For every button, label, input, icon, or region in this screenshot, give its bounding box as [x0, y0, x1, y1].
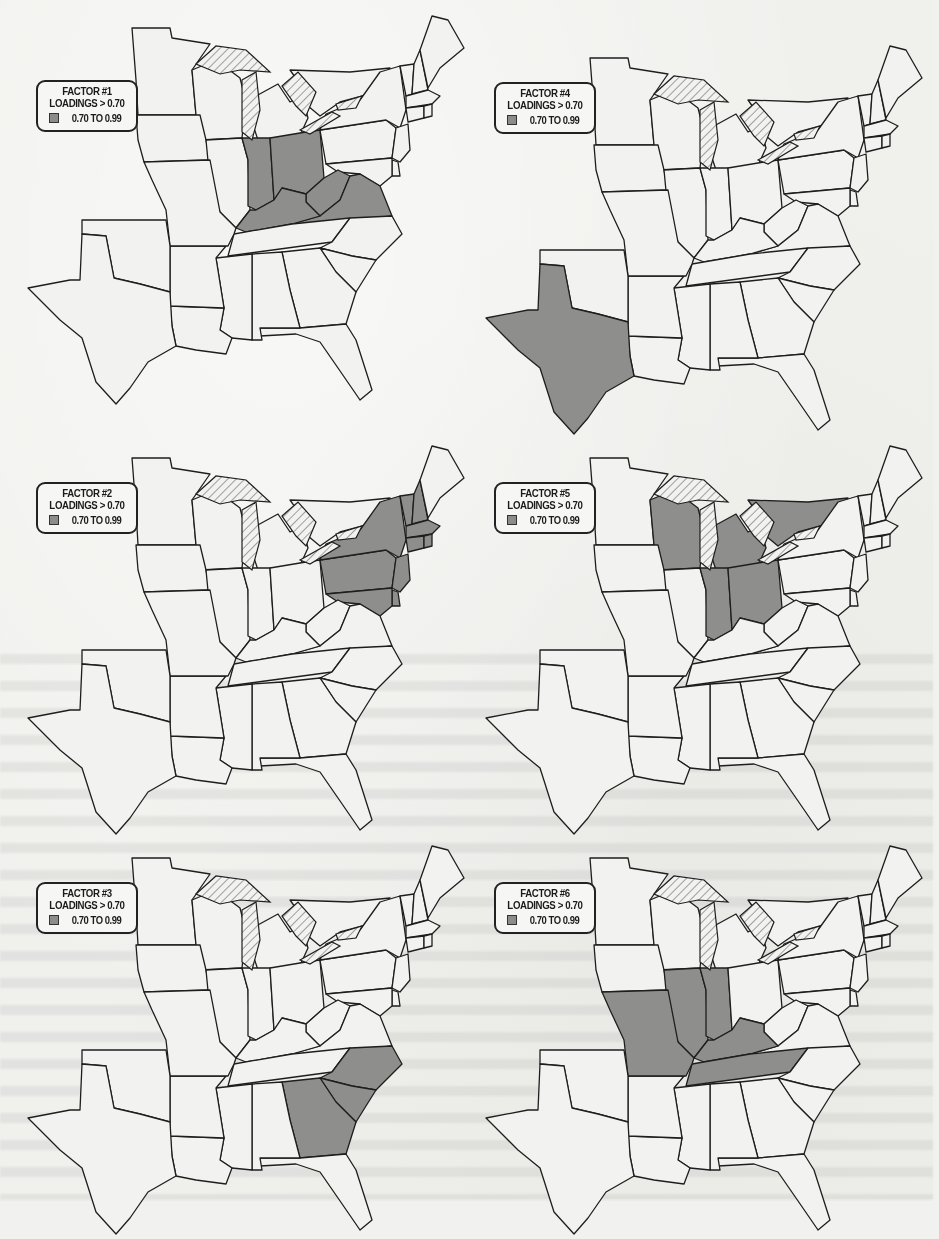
- legend-range-label: 0.70 TO 0.99: [530, 114, 580, 126]
- legend-swatch-icon: [507, 515, 517, 525]
- map-panel-factor-2: FACTOR #2LOADINGS > 0.700.70 TO 0.99: [20, 440, 486, 840]
- state-connecticut: [864, 536, 882, 552]
- state-delaware: [850, 590, 858, 606]
- legend-subtitle: LOADINGS > 0.70: [46, 97, 129, 109]
- legend-box: FACTOR #1LOADINGS > 0.700.70 TO 0.99: [36, 80, 138, 132]
- legend-range-label: 0.70 TO 0.99: [530, 914, 580, 926]
- state-florida: [260, 754, 372, 830]
- state-delaware: [392, 160, 400, 176]
- state-florida: [718, 1154, 830, 1230]
- map-panel-factor-5: FACTOR #5LOADINGS > 0.700.70 TO 0.99: [478, 440, 939, 840]
- state-connecticut: [406, 936, 424, 952]
- map-panel-factor-6: FACTOR #6LOADINGS > 0.700.70 TO 0.99: [478, 840, 939, 1239]
- legend-subtitle: LOADINGS > 0.70: [504, 99, 587, 111]
- legend-box: FACTOR #5LOADINGS > 0.700.70 TO 0.99: [494, 482, 596, 534]
- map-panel-factor-1: FACTOR #1LOADINGS > 0.700.70 TO 0.99: [20, 10, 486, 410]
- legend-subtitle: LOADINGS > 0.70: [46, 499, 129, 511]
- legend-range-label: 0.70 TO 0.99: [72, 112, 122, 124]
- legend-box: FACTOR #4LOADINGS > 0.700.70 TO 0.99: [494, 82, 596, 134]
- state-delaware: [392, 990, 400, 1006]
- state-delaware: [850, 990, 858, 1006]
- legend-entry: 0.70 TO 0.99: [500, 114, 590, 126]
- state-rhode-island: [424, 104, 432, 118]
- legend-title: FACTOR #5: [504, 487, 587, 499]
- legend-entry: 0.70 TO 0.99: [500, 914, 590, 926]
- state-iowa: [136, 545, 210, 592]
- legend-box: FACTOR #3LOADINGS > 0.700.70 TO 0.99: [36, 882, 138, 934]
- legend-subtitle: LOADINGS > 0.70: [504, 499, 587, 511]
- legend-title: FACTOR #2: [46, 487, 129, 499]
- state-arkansas: [170, 246, 226, 308]
- legend-swatch-icon: [49, 515, 59, 525]
- legend-title: FACTOR #3: [46, 887, 129, 899]
- legend-subtitle: LOADINGS > 0.70: [46, 899, 129, 911]
- legend-title: FACTOR #6: [504, 887, 587, 899]
- legend-swatch-icon: [507, 115, 517, 125]
- state-maine: [878, 46, 922, 118]
- state-maine: [420, 446, 464, 518]
- state-rhode-island: [424, 534, 432, 548]
- state-iowa: [594, 545, 668, 592]
- legend-range-label: 0.70 TO 0.99: [72, 514, 122, 526]
- state-rhode-island: [882, 934, 890, 948]
- state-iowa: [594, 145, 668, 192]
- state-rhode-island: [882, 534, 890, 548]
- legend-title: FACTOR #4: [504, 87, 587, 99]
- legend-entry: 0.70 TO 0.99: [500, 514, 590, 526]
- state-iowa: [136, 945, 210, 992]
- legend-box: FACTOR #2LOADINGS > 0.700.70 TO 0.99: [36, 482, 138, 534]
- map-panel-factor-4: FACTOR #4LOADINGS > 0.700.70 TO 0.99: [478, 40, 939, 440]
- state-maine: [878, 846, 922, 918]
- state-delaware: [392, 590, 400, 606]
- state-connecticut: [406, 106, 424, 122]
- state-florida: [718, 754, 830, 830]
- state-connecticut: [406, 536, 424, 552]
- state-connecticut: [864, 136, 882, 152]
- state-rhode-island: [882, 134, 890, 148]
- legend-entry: 0.70 TO 0.99: [42, 112, 132, 124]
- state-maine: [420, 846, 464, 918]
- legend-swatch-icon: [507, 915, 517, 925]
- state-florida: [260, 324, 372, 400]
- legend-swatch-icon: [49, 113, 59, 123]
- state-arkansas: [628, 1076, 684, 1138]
- state-maine: [420, 16, 464, 88]
- state-maine: [878, 446, 922, 518]
- state-arkansas: [628, 276, 684, 338]
- state-iowa: [136, 115, 210, 162]
- map-panel-factor-3: FACTOR #3LOADINGS > 0.700.70 TO 0.99: [20, 840, 486, 1239]
- legend-title: FACTOR #1: [46, 85, 129, 97]
- legend-swatch-icon: [49, 915, 59, 925]
- legend-entry: 0.70 TO 0.99: [42, 914, 132, 926]
- state-arkansas: [170, 676, 226, 738]
- state-arkansas: [170, 1076, 226, 1138]
- state-florida: [260, 1154, 372, 1230]
- state-florida: [718, 354, 830, 430]
- legend-subtitle: LOADINGS > 0.70: [504, 899, 587, 911]
- state-arkansas: [628, 676, 684, 738]
- legend-range-label: 0.70 TO 0.99: [530, 514, 580, 526]
- legend-range-label: 0.70 TO 0.99: [72, 914, 122, 926]
- legend-box: FACTOR #6LOADINGS > 0.700.70 TO 0.99: [494, 882, 596, 934]
- state-connecticut: [864, 936, 882, 952]
- state-rhode-island: [424, 934, 432, 948]
- state-iowa: [594, 945, 668, 992]
- eastern-us-map: [20, 10, 486, 410]
- legend-entry: 0.70 TO 0.99: [42, 514, 132, 526]
- state-delaware: [850, 190, 858, 206]
